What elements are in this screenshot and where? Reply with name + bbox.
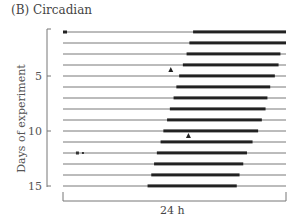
day-row [63,129,286,132]
day-row [63,140,286,143]
day-row [63,162,286,165]
day-row [63,63,286,66]
arrow-up-icon [186,133,191,138]
activity-band [151,173,239,176]
activity-band [167,118,262,121]
day-row [63,173,286,176]
mark [76,152,79,155]
mark [82,152,84,154]
y-axis: 51015 [28,29,51,193]
actogram-rows [63,30,286,187]
day-row [63,30,286,33]
activity-band [189,41,286,44]
activity-band [161,140,253,143]
activity-band [157,151,247,154]
y-tick-label: 10 [28,125,42,138]
day-row [63,85,286,88]
day-row [63,52,286,55]
day-row [63,96,286,99]
day-row [63,74,286,77]
activity-band [163,129,258,132]
activity-band [187,52,281,55]
actogram-chart: 51015 [0,0,305,222]
activity-band [154,162,243,165]
x-axis-bracket [63,192,286,201]
activity-band [176,85,270,88]
day-row [63,151,286,154]
day-row [63,184,286,187]
activity-band [174,96,268,99]
y-tick-label: 5 [35,70,42,83]
day-row [63,107,286,110]
activity-band [183,63,279,66]
y-tick-label: 15 [28,180,42,193]
activity-band [179,74,275,77]
arrow-up-icon [168,67,173,72]
day-row [63,41,286,44]
day-row [63,118,286,121]
activity-band [170,107,266,110]
activity-band [193,30,286,33]
activity-band [148,184,237,187]
